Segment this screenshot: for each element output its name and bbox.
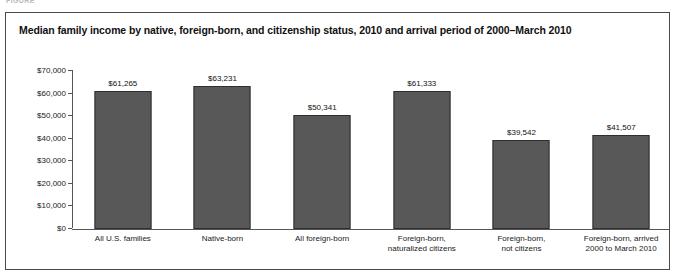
y-axis-label: $20,000 bbox=[37, 178, 66, 187]
y-axis-tick bbox=[68, 205, 72, 206]
bar-group: $39,542Foreign-born,not citizens bbox=[472, 70, 572, 229]
y-axis-tick bbox=[68, 115, 72, 116]
x-axis-line bbox=[72, 229, 670, 230]
bar-value-label: $61,265 bbox=[108, 79, 137, 88]
x-axis-category-label: All U.S. families bbox=[95, 234, 151, 244]
bar-value-label: $41,507 bbox=[607, 123, 636, 132]
bar[interactable] bbox=[194, 86, 251, 229]
y-axis-tick bbox=[68, 93, 72, 94]
bar-value-label: $50,341 bbox=[308, 103, 337, 112]
x-axis-category-label: All foreign-born bbox=[295, 234, 349, 244]
y-axis-tick bbox=[68, 138, 72, 139]
bar-group: $50,341All foreign-born bbox=[272, 70, 372, 229]
y-axis-label: $50,000 bbox=[37, 111, 66, 120]
bar-group: $63,231Native-born bbox=[173, 70, 273, 229]
y-axis-label: $70,000 bbox=[37, 66, 66, 75]
y-axis-label: $60,000 bbox=[37, 88, 66, 97]
bar[interactable] bbox=[393, 91, 450, 229]
bar-group: $61,333Foreign-born,naturalized citizens bbox=[372, 70, 472, 229]
bar-series: $61,265All U.S. families$63,231Native-bo… bbox=[73, 70, 672, 229]
figure-number-header: FIGURE bbox=[6, 0, 35, 4]
bar[interactable] bbox=[593, 135, 650, 229]
chart-plot-area: $70,000$60,000$50,000$40,000$30,000$20,0… bbox=[72, 70, 672, 230]
y-axis-tick bbox=[68, 183, 72, 184]
bar-value-label: $61,333 bbox=[407, 79, 436, 88]
bar[interactable] bbox=[94, 91, 151, 229]
y-axis-tick bbox=[68, 228, 72, 229]
bar-group: $41,507Foreign-born, arrived2000 to Marc… bbox=[571, 70, 671, 229]
x-axis-category-label: Foreign-born, arrived2000 to March 2010 bbox=[584, 234, 659, 254]
y-axis-label: $30,000 bbox=[37, 156, 66, 165]
y-axis-label: $10,000 bbox=[37, 201, 66, 210]
y-axis-tick bbox=[68, 70, 72, 71]
y-axis-tick bbox=[68, 160, 72, 161]
bar-value-label: $39,542 bbox=[507, 128, 536, 137]
chart-title: Median family income by native, foreign-… bbox=[19, 24, 571, 36]
bar-group: $61,265All U.S. families bbox=[73, 70, 173, 229]
x-axis-category-label: Foreign-born,not citizens bbox=[497, 234, 545, 254]
x-axis-category-label: Foreign-born,naturalized citizens bbox=[388, 234, 456, 254]
figure-frame: Median family income by native, foreign-… bbox=[5, 12, 670, 270]
y-axis-label: $40,000 bbox=[37, 133, 66, 142]
y-axis-label: $0 bbox=[57, 224, 66, 233]
bar[interactable] bbox=[294, 115, 351, 229]
bar-value-label: $63,231 bbox=[208, 74, 237, 83]
x-axis-category-label: Native-born bbox=[202, 234, 243, 244]
bar[interactable] bbox=[493, 140, 550, 229]
